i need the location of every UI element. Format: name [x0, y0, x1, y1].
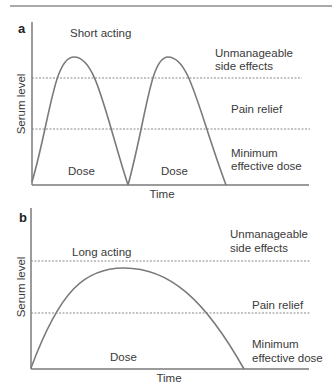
panel-a-upper-zone-label-2: side effects	[215, 60, 273, 72]
panel-a-dose-label-1: Dose	[68, 165, 95, 177]
panel-b: b Long acting Serum level Time Dose Unma…	[15, 208, 323, 384]
panel-a-y-axis-label: Serum level	[15, 74, 27, 135]
panel-a: a Short acting Serum level Time Dose Dos…	[15, 21, 310, 200]
panel-a-middle-zone-label: Pain relief	[231, 103, 283, 115]
panel-b-middle-zone-label: Pain relief	[252, 299, 304, 311]
panel-b-lower-zone-label-2: effective dose	[252, 352, 323, 364]
panel-b-y-axis-label: Serum level	[15, 257, 27, 318]
panel-b-letter: b	[19, 210, 27, 225]
panel-b-lower-zone-label-1: Minimum	[252, 338, 299, 350]
panel-b-title: Long acting	[72, 246, 131, 258]
panel-b-dose-label: Dose	[110, 351, 137, 363]
panel-a-lower-zone-label-1: Minimum	[231, 147, 278, 159]
panel-a-lower-zone-label-2: effective dose	[231, 160, 302, 172]
panel-a-letter: a	[18, 21, 26, 36]
panel-a-upper-zone-label-1: Unmanageable	[215, 47, 293, 59]
serum-level-diagram: a Short acting Serum level Time Dose Dos…	[0, 0, 332, 390]
panel-a-x-axis-label: Time	[149, 188, 174, 200]
panel-b-upper-zone-label-1: Unmanageable	[230, 228, 308, 240]
panel-a-dose-label-2: Dose	[161, 165, 188, 177]
panel-b-x-axis-label: Time	[156, 372, 181, 384]
panel-b-dose-curve	[31, 268, 244, 369]
panel-b-upper-zone-label-2: side effects	[230, 242, 288, 254]
panel-a-title: Short acting	[70, 27, 131, 39]
